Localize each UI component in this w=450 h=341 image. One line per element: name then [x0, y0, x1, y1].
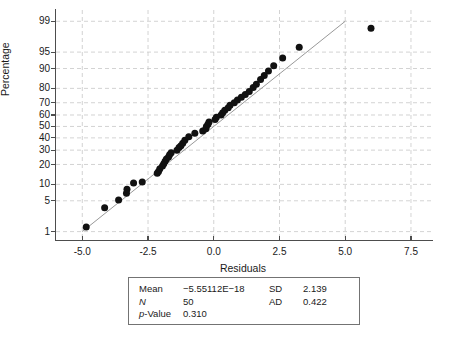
stat-row: N 50 AD 0.422	[139, 296, 343, 309]
y-tick-label: 40	[39, 133, 50, 143]
y-tick-label: 50	[39, 121, 50, 131]
x-tick-mark	[279, 236, 280, 241]
y-tick-label: 10	[39, 179, 50, 189]
stat-value: 50	[183, 296, 269, 309]
x-axis-title: Residuals	[0, 262, 450, 274]
x-tick-label: -2.5	[139, 246, 156, 257]
normal-probability-plot: Percentage 151020304050607080909599 -5.0…	[0, 0, 450, 341]
y-axis-ticks: 151020304050607080909599	[0, 0, 50, 341]
y-tick-label: 80	[39, 83, 50, 93]
x-tick-mark	[82, 236, 83, 241]
y-tick-label: 30	[39, 145, 50, 155]
plot-area	[56, 10, 432, 240]
stat-value-secondary: 0.422	[303, 296, 343, 309]
y-tick-label: 5	[44, 196, 50, 206]
stat-value-secondary	[303, 308, 343, 321]
y-tick-label: 95	[39, 47, 50, 57]
y-tick-label: 1	[44, 227, 50, 237]
stat-key-secondary	[269, 308, 303, 321]
stat-row: Mean −5.55112E−18 SD 2.139	[139, 283, 343, 296]
y-tick-label: 70	[39, 98, 50, 108]
stat-value: 0.310	[183, 308, 269, 321]
y-tick-label: 60	[39, 110, 50, 120]
stat-row: p-Value 0.310	[139, 308, 343, 321]
x-axis-line	[55, 240, 433, 241]
y-tick-label: 20	[39, 160, 50, 170]
x-tick-label: 2.5	[273, 246, 287, 257]
statistics-grid: Mean −5.55112E−18 SD 2.139 N 50 AD 0.422…	[139, 283, 343, 321]
x-tick-mark	[345, 236, 346, 241]
x-tick-mark	[147, 236, 148, 241]
x-tick-mark	[410, 236, 411, 241]
stat-key: p-Value	[139, 308, 183, 321]
x-tick-label: 7.5	[404, 246, 418, 257]
x-tick-label: 0.0	[207, 246, 221, 257]
data-points	[56, 10, 432, 240]
x-tick-mark	[213, 236, 214, 241]
stat-value: −5.55112E−18	[183, 283, 269, 296]
y-tick-label: 99	[39, 16, 50, 26]
stat-key: N	[139, 296, 183, 309]
stat-key-secondary: AD	[269, 296, 303, 309]
x-tick-label: 5.0	[338, 246, 352, 257]
stat-key-secondary: SD	[269, 283, 303, 296]
x-tick-label: -5.0	[74, 246, 91, 257]
stat-key: Mean	[139, 283, 183, 296]
statistics-summary-box: Mean −5.55112E−18 SD 2.139 N 50 AD 0.422…	[128, 277, 360, 325]
stat-value-secondary: 2.139	[303, 283, 343, 296]
y-tick-label: 90	[39, 64, 50, 74]
